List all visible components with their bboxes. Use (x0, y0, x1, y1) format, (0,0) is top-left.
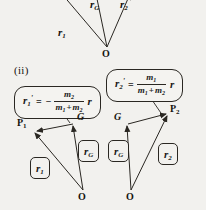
vector-pill-r1-text: r1 (36, 162, 44, 174)
vector-pill-r2-text: r2 (164, 148, 172, 160)
origin-label-left: O (78, 192, 86, 202)
formula-right-numerator: m1 (143, 73, 159, 84)
formula-right-equals: = (127, 80, 135, 90)
figure-root: r1 rG r2 O (ii) r1' = − m2 m1+m2 r r2' =… (0, 0, 206, 210)
point-label-g-left: G (77, 112, 84, 122)
vector-pill-r1: r1 (30, 157, 50, 179)
formula-left-numerator: m2 (61, 90, 77, 101)
part-label: (ii) (14, 65, 29, 76)
top-vector-label-r2: r2 (120, 0, 128, 12)
vector-pill-rG-right: rG (108, 140, 129, 162)
origin-label-right: O (126, 192, 134, 202)
formula-left-lhs: r1' (23, 95, 33, 108)
vector-pill-rG-right-text: rG (114, 145, 123, 157)
vector-pill-rG-left-text: rG (84, 145, 93, 157)
formula-left-sign: − (45, 97, 53, 107)
top-vector-label-r1: r1 (58, 27, 66, 40)
formula-right-fraction: m1 m1+m2 (137, 73, 166, 97)
vector-pill-rG-left: rG (78, 140, 99, 162)
top-origin-label: O (102, 49, 110, 59)
formula-box-r2-prime: r2' = m1 m1+m2 r (106, 69, 183, 102)
formula-left-equals: = (35, 97, 43, 107)
point-label-p1: P1 (17, 118, 27, 130)
formula-box-r1-prime: r1' = − m2 m1+m2 r (14, 86, 101, 119)
point-label-p2: P2 (170, 104, 180, 116)
top-vector-label-rG: rG (90, 0, 99, 12)
formula-right-rhs: r (168, 79, 174, 90)
vector-pill-r2: r2 (158, 143, 178, 165)
point-label-g-right: G (114, 112, 121, 122)
formula-left-rhs: r (86, 96, 92, 107)
formula-right-denominator: m1+m2 (137, 84, 166, 96)
formula-right-lhs: r2' (115, 78, 125, 91)
